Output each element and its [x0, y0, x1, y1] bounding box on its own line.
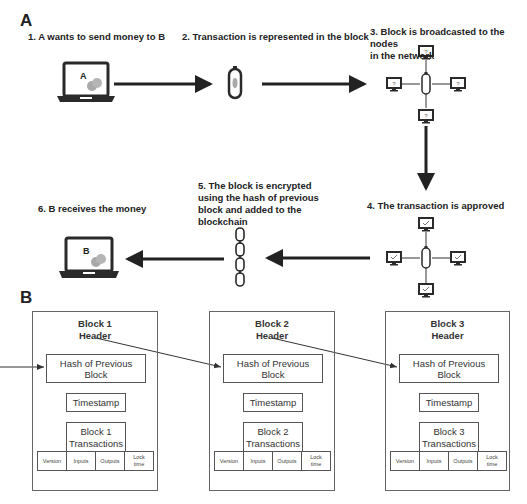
monitor-check-icon-right — [451, 252, 465, 266]
block-3-tx-label: Transactions — [420, 438, 478, 450]
step-5-line-1: 5. The block is encrypted — [198, 180, 319, 192]
block-3: Block 3 Header Hash of Previous Block Ti… — [385, 311, 510, 491]
network-approved — [387, 218, 465, 298]
field-time-label: time — [134, 461, 144, 468]
laptop-b-icon — [59, 238, 119, 278]
step-3-line-1: 3. Block is broadcasted to the nodes — [370, 26, 527, 50]
field-lock-time: Lock time — [478, 452, 506, 470]
monitor-check-icon-top — [419, 218, 433, 232]
block-capsule-icon — [229, 66, 241, 98]
field-lock-label: Lock — [133, 454, 145, 461]
field-time-label: time — [487, 461, 497, 468]
block-1-tx-label: Transactions — [67, 438, 125, 450]
block-2-transaction-fields: Version Inputs Outputs Lock time — [214, 451, 331, 471]
field-inputs: Inputs — [420, 452, 449, 470]
block-1: Block 1 Header Hash of Previous Block Ti… — [32, 311, 158, 491]
field-lock-time: Lock time — [302, 452, 330, 470]
field-lock-time: Lock time — [125, 452, 153, 470]
block-3-hash-of-previous-block: Hash of Previous Block — [399, 354, 499, 383]
step-4-caption: 4. The transaction is approved — [367, 200, 504, 212]
step-5-caption: 5. The block is encrypted using the hash… — [198, 180, 319, 228]
block-1-transaction-fields: Version Inputs Outputs Lock time — [37, 451, 154, 471]
block-3-header-label: Header — [386, 330, 509, 342]
step-5-line-2: using the hash of previous — [198, 192, 319, 204]
laptop-a-label: A — [80, 71, 87, 81]
field-outputs: Outputs — [96, 452, 125, 470]
field-version: Version — [38, 452, 67, 470]
block-3-tx-title: Block 3 — [420, 426, 478, 438]
step-3-caption: 3. Block is broadcasted to the nodes in … — [370, 26, 527, 62]
field-inputs: Inputs — [244, 452, 273, 470]
block-1-timestamp: Timestamp — [66, 393, 126, 412]
panel-b-label: B — [20, 288, 32, 308]
blockchain-chain-icon — [236, 228, 244, 286]
field-outputs: Outputs — [273, 452, 302, 470]
block-2-transactions: Block 2 Transactions — [243, 422, 303, 452]
block-1-hash-of-previous-block: Hash of Previous Block — [46, 354, 146, 383]
block-2-hash-of-previous-block: Hash of Previous Block — [223, 354, 323, 383]
block-2-timestamp: Timestamp — [243, 393, 303, 412]
block-2-header-title: Block 2 Header — [210, 318, 334, 342]
block-3-transaction-fields: Version Inputs Outputs Lock time — [390, 451, 507, 471]
block-1-transactions: Block 1 Transactions — [66, 422, 126, 452]
laptop-a-icon — [57, 63, 115, 102]
step-1-caption: 1. A wants to send money to B — [28, 31, 165, 43]
block-2: Block 2 Header Hash of Previous Block Ti… — [209, 311, 335, 491]
block-2-header-label: Header — [210, 330, 334, 342]
block-3-transactions: Block 3 Transactions — [419, 422, 479, 452]
field-outputs: Outputs — [449, 452, 478, 470]
monitor-icon-right: ? — [451, 78, 465, 92]
field-lock-label: Lock — [310, 454, 322, 461]
monitor-check-icon-left — [387, 252, 401, 266]
block-2-title: Block 2 — [210, 318, 334, 330]
step-6-caption: 6. B receives the money — [38, 203, 146, 215]
step-3-line-2: in the network — [370, 50, 527, 62]
step-5-line-3: block and added to the — [198, 204, 319, 216]
step-5-line-4: blockchain — [198, 216, 319, 228]
block-capsule-icon — [422, 246, 430, 268]
block-2-tx-title: Block 2 — [244, 426, 302, 438]
block-3-timestamp: Timestamp — [419, 393, 479, 412]
block-2-tx-label: Transactions — [244, 438, 302, 450]
monitor-icon-left: ? — [387, 78, 401, 92]
monitor-icon-bottom: ? — [419, 110, 433, 124]
field-version: Version — [391, 452, 420, 470]
laptop-b-label: B — [83, 246, 90, 256]
field-lock-label: Lock — [486, 454, 498, 461]
block-1-tx-title: Block 1 — [67, 426, 125, 438]
block-1-header-label: Header — [33, 330, 157, 342]
field-version: Version — [215, 452, 244, 470]
block-1-header-title: Block 1 Header — [33, 318, 157, 342]
step-2-caption: 2. Transaction is represented in the blo… — [182, 31, 369, 43]
block-1-title: Block 1 — [33, 318, 157, 330]
monitor-check-icon-bottom — [419, 284, 433, 298]
block-3-header-title: Block 3 Header — [386, 318, 509, 342]
block-3-title: Block 3 — [386, 318, 509, 330]
block-capsule-icon — [422, 72, 430, 94]
field-time-label: time — [311, 461, 321, 468]
panel-a-label: A — [20, 11, 32, 31]
field-inputs: Inputs — [67, 452, 96, 470]
